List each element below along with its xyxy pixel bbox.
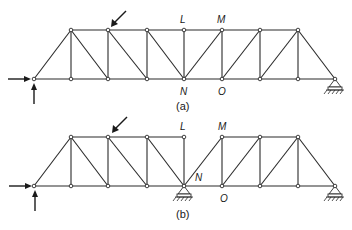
truss-figure: L M N O (a) bbox=[0, 0, 352, 230]
label-N-a: N bbox=[180, 86, 188, 97]
inclined-load-arrow-b bbox=[112, 117, 127, 133]
label-M-a: M bbox=[217, 14, 226, 25]
vertical-reaction-arrow-a bbox=[31, 83, 37, 104]
truss-diagram-b: L M N O (b) bbox=[9, 117, 344, 220]
label-O-b: O bbox=[220, 193, 228, 204]
verticals-a bbox=[71, 30, 298, 79]
caption-b: (b) bbox=[176, 208, 189, 220]
caption-a: (a) bbox=[176, 100, 189, 112]
verticals-b bbox=[71, 137, 298, 186]
pin-support-middle-b bbox=[173, 186, 193, 201]
horizontal-load-arrow-a bbox=[8, 76, 31, 82]
pin-support-right-a bbox=[324, 79, 344, 94]
label-M-b: M bbox=[218, 121, 227, 132]
label-L-a: L bbox=[180, 14, 186, 25]
inclined-load-arrow-a bbox=[111, 11, 126, 27]
vertical-reaction-arrow-b bbox=[32, 190, 38, 211]
label-L-b: L bbox=[180, 121, 186, 132]
end-diagonal-right-a bbox=[298, 30, 335, 79]
horizontal-load-arrow-b bbox=[9, 183, 32, 189]
end-diagonal-left-a bbox=[34, 30, 71, 79]
end-diagonal-left-b bbox=[34, 137, 71, 186]
label-N-b: N bbox=[195, 172, 203, 183]
pin-support-right-b bbox=[324, 186, 344, 201]
label-O-a: O bbox=[218, 86, 226, 97]
truss-diagram-a: L M N O (a) bbox=[8, 11, 344, 112]
end-diagonal-right-b bbox=[298, 137, 335, 186]
